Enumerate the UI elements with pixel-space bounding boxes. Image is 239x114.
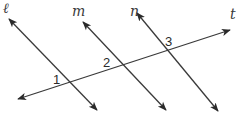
line-n-label: n <box>130 3 139 19</box>
angle-2-label: 2 <box>103 55 110 70</box>
line-m-stroke <box>83 22 166 110</box>
line-m-label: m <box>72 3 85 19</box>
angle-1-label: 1 <box>53 72 60 87</box>
parallel-lines-transversal-diagram: ℓ m n t 1 2 3 <box>0 0 239 114</box>
transversal-t-label: t <box>230 6 236 22</box>
line-n-stroke <box>137 13 218 111</box>
transversal-t: t <box>18 6 236 99</box>
line-m: m <box>72 3 166 110</box>
line-l-stroke <box>9 19 97 110</box>
angle-labels: 1 2 3 <box>53 34 172 87</box>
line-l-label: ℓ <box>3 0 9 16</box>
line-n: n <box>130 3 218 111</box>
angle-3-label: 3 <box>165 34 172 49</box>
transversal-t-stroke <box>18 30 230 99</box>
